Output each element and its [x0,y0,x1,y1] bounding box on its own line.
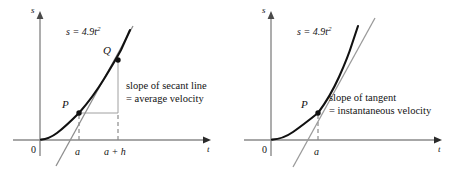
point-p-label: P [61,98,69,110]
annotation-line-2: = instantaneous velocity [329,105,432,116]
t-axis-arrowhead [434,137,442,144]
tick-a-plus-h-label: a + h [104,146,126,157]
t-axis-label: t [207,144,210,154]
equation-label: s = 4.9t2 [297,25,332,37]
annotation-line-1: slope of secant line [126,80,207,91]
annotation-line-1: slope of tangent [329,92,396,103]
position-curve [41,30,130,140]
equation-exponent: 2 [97,25,101,33]
origin-label: 0 [31,144,36,155]
s-axis-label: s [262,5,266,15]
point-p-dot [76,110,81,115]
point-q-dot [115,57,120,62]
s-axis-label: s [31,5,35,15]
equation-base: s = 4.9t [66,26,97,37]
point-p-label: P [300,98,308,110]
tick-a-label: a [314,146,319,157]
s-axis-arrowhead [268,11,275,19]
equation-exponent: 2 [328,25,332,33]
s-axis-arrowhead [37,11,44,19]
point-p-dot [315,110,320,115]
t-axis-label: t [438,144,441,154]
tick-a-label: a [75,146,80,157]
equation-label: s = 4.9t2 [66,25,101,37]
secant-line-panel: s t 0 a a + h P Q s = 4.9t2 slope of sec… [0,0,231,177]
tangent-line-panel: s t 0 a P s = 4.9t2 slope of tangent = i… [231,0,462,177]
origin-label: 0 [262,144,267,155]
figure-container: s t 0 a a + h P Q s = 4.9t2 slope of sec… [0,0,462,177]
point-q-label: Q [103,44,111,56]
tangent-line-diagram: s t 0 a P s = 4.9t2 slope of tangent = i… [231,0,462,177]
position-curve [272,26,358,140]
equation-base: s = 4.9t [297,26,328,37]
annotation-line-2: = average velocity [126,93,204,104]
t-axis-arrowhead [203,137,211,144]
secant-line-diagram: s t 0 a a + h P Q s = 4.9t2 slope of sec… [0,0,231,177]
